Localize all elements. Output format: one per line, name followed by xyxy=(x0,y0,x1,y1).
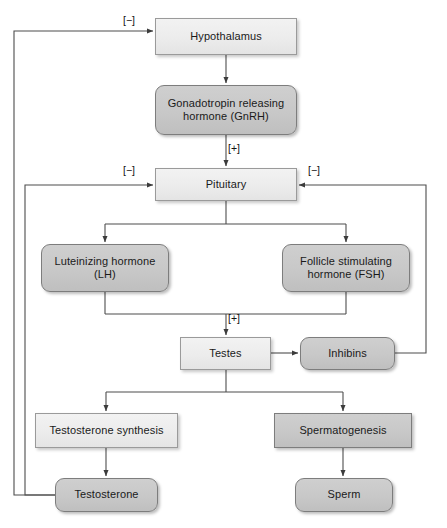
sign-label-negative-pituitary-left: [−] xyxy=(123,164,135,176)
node-gnrh-label: Gonadotropin releasing hormone (GnRH) xyxy=(160,97,292,124)
node-testes-label: Testes xyxy=(209,347,241,361)
edge-testosterone-feedback-pituitary xyxy=(25,185,153,495)
node-follicle-stimulating-hormone[interactable]: Follicle stimulating hormone (FSH) xyxy=(282,244,410,292)
node-hypothalamus-label: Hypothalamus xyxy=(190,30,262,44)
node-inhibins[interactable]: Inhibins xyxy=(300,337,395,370)
node-testosterone-label: Testosterone xyxy=(74,488,138,502)
sign-label-positive-gonadotropins-testes: [+] xyxy=(228,312,240,324)
node-spermatogenesis[interactable]: Spermatogenesis xyxy=(274,413,412,448)
node-pituitary-label: Pituitary xyxy=(206,178,247,192)
sign-label-positive-gnrh-pituitary: [+] xyxy=(228,142,240,154)
node-inhibins-label: Inhibins xyxy=(328,347,367,361)
node-pituitary[interactable]: Pituitary xyxy=(155,168,297,201)
node-sperm-label: Sperm xyxy=(328,488,361,502)
node-luteinizing-hormone[interactable]: Luteinizing hormone (LH) xyxy=(41,244,169,292)
node-gonadotropin-releasing-hormone[interactable]: Gonadotropin releasing hormone (GnRH) xyxy=(155,85,297,135)
node-lh-label: Luteinizing hormone (LH) xyxy=(46,255,164,282)
sign-label-negative-hypothalamus: [−] xyxy=(123,14,135,26)
node-sperm[interactable]: Sperm xyxy=(295,478,393,512)
sign-label-negative-pituitary-right: [−] xyxy=(308,164,320,176)
flowchart-container: Hypothalamus Gonadotropin releasing horm… xyxy=(0,0,447,528)
node-testosterone[interactable]: Testosterone xyxy=(55,478,158,512)
node-fsh-label: Follicle stimulating hormone (FSH) xyxy=(287,255,405,282)
node-testes[interactable]: Testes xyxy=(180,337,271,370)
node-spermatogenesis-label: Spermatogenesis xyxy=(299,424,386,438)
node-testosterone-synthesis[interactable]: Testosterone synthesis xyxy=(35,413,178,448)
node-hypothalamus[interactable]: Hypothalamus xyxy=(155,18,297,55)
node-testosterone-synthesis-label: Testosterone synthesis xyxy=(49,424,163,438)
